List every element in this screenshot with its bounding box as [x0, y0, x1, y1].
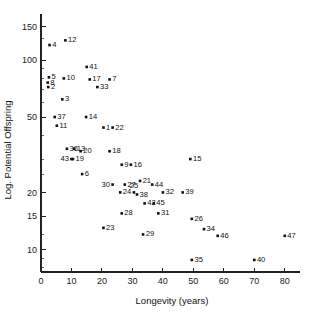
data-point: 9 — [120, 160, 128, 169]
data-point-marker — [53, 116, 56, 119]
data-point: 12 — [64, 35, 76, 44]
data-point-label: 37 — [57, 112, 65, 121]
data-point: 34 — [203, 224, 215, 233]
data-point: 23 — [102, 223, 114, 232]
data-point-label: 10 — [66, 73, 74, 82]
data-point: 41 — [85, 62, 97, 71]
data-point-marker — [102, 227, 105, 230]
data-point-marker — [66, 147, 69, 150]
y-tick-label: 20 — [27, 188, 37, 198]
data-point: 39 — [181, 187, 193, 196]
data-point-label: 11 — [59, 121, 67, 130]
data-point: 11 — [56, 121, 68, 130]
data-point: 18 — [108, 146, 120, 155]
data-point-label: 32 — [165, 187, 173, 196]
data-point: 10 — [63, 73, 75, 82]
data-point-label: 35 — [194, 255, 202, 264]
data-point-marker — [79, 150, 82, 153]
data-point-marker — [70, 158, 73, 161]
data-point-marker — [108, 150, 111, 153]
data-point-marker — [48, 44, 51, 47]
data-point-marker — [120, 212, 123, 215]
data-point-marker — [151, 183, 154, 186]
data-point-marker — [96, 86, 99, 89]
data-point-marker — [120, 163, 123, 166]
data-point-label: 36 — [70, 144, 78, 153]
data-point: 30 — [102, 180, 114, 189]
x-axis-tick-labels: 01020304050607080 — [38, 276, 289, 286]
data-point-label: 26 — [194, 214, 202, 223]
data-point-label: 16 — [133, 160, 141, 169]
data-point-label: 44 — [155, 180, 163, 189]
data-point-marker — [143, 202, 146, 205]
data-point: 6 — [81, 169, 89, 178]
data-point-marker — [85, 116, 88, 119]
scatter-plot-svg: 15010050201510 01020304050607080 1234567… — [0, 0, 309, 314]
data-point-label: 7 — [112, 74, 116, 83]
data-point-label: 15 — [193, 154, 201, 163]
data-point-label: 40 — [257, 255, 265, 264]
data-point: 37 — [53, 112, 65, 121]
data-point: 44 — [151, 180, 163, 189]
data-point-marker — [142, 233, 145, 236]
data-point-label: 33 — [100, 82, 108, 91]
data-point: 26 — [191, 214, 203, 223]
x-tick-label: 40 — [158, 276, 168, 286]
data-point: 43 — [60, 154, 72, 163]
data-point-marker — [81, 173, 84, 176]
data-point-label: 20 — [83, 146, 91, 155]
data-point-label: 28 — [124, 208, 132, 217]
data-point-label: 6 — [85, 169, 89, 178]
data-point: 3 — [61, 94, 69, 103]
data-point-label: 29 — [146, 229, 154, 238]
data-point-marker — [162, 191, 165, 194]
data-point-label: 46 — [220, 231, 228, 240]
data-point-marker — [152, 202, 155, 205]
data-point-marker — [64, 39, 67, 42]
data-point-marker — [253, 259, 256, 262]
data-point: 16 — [130, 160, 142, 169]
data-point-label: 12 — [68, 35, 76, 44]
x-tick-label: 70 — [249, 276, 259, 286]
data-point: 4 — [48, 40, 56, 49]
data-point-marker — [191, 218, 194, 221]
data-point-label: 8 — [50, 78, 54, 87]
data-point-marker — [102, 126, 105, 129]
data-point-label: 23 — [106, 223, 114, 232]
data-point-marker — [139, 180, 142, 183]
x-tick-label: 20 — [97, 276, 107, 286]
data-point-marker — [157, 212, 160, 215]
data-point-label: 39 — [185, 187, 193, 196]
data-point-label: 34 — [207, 224, 215, 233]
data-point-marker — [123, 183, 126, 186]
y-tick-label: 100 — [22, 55, 37, 65]
data-point-marker — [46, 81, 49, 84]
data-point-marker — [88, 78, 91, 81]
data-point-marker — [61, 98, 64, 101]
x-tick-label: 60 — [219, 276, 229, 286]
data-point-marker — [189, 158, 192, 161]
data-point: 7 — [108, 74, 116, 83]
x-axis-major-ticks — [41, 268, 285, 272]
data-point: 47 — [283, 231, 295, 240]
data-point: 14 — [85, 112, 97, 121]
data-point-marker — [56, 124, 59, 127]
data-point-marker — [283, 235, 286, 238]
data-point-label: 30 — [102, 180, 110, 189]
data-point-marker — [47, 86, 50, 89]
data-point: 40 — [253, 255, 265, 264]
data-point-label: 41 — [89, 62, 97, 71]
data-point-marker — [63, 77, 66, 80]
y-axis-major-ticks — [41, 27, 46, 250]
data-point: 28 — [120, 208, 132, 217]
data-point: 17 — [88, 74, 100, 83]
data-point-label: 21 — [143, 176, 151, 185]
y-axis-title: Log. Potential Offspring — [2, 100, 13, 199]
data-point-label: 9 — [124, 160, 128, 169]
data-point-marker — [111, 183, 114, 186]
data-point-group: 1234567891011121314151617181920212223242… — [46, 35, 295, 264]
y-tick-label: 15 — [27, 211, 37, 221]
data-point-marker — [119, 191, 122, 194]
x-tick-label: 30 — [127, 276, 137, 286]
data-point-label: 38 — [140, 190, 148, 199]
